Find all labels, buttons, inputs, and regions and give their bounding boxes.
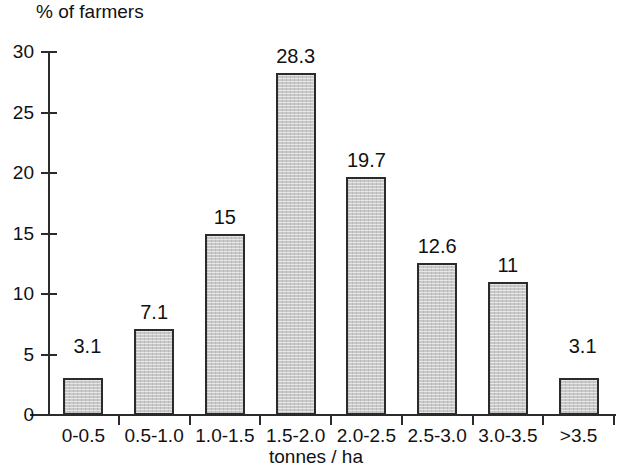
bar (134, 329, 174, 415)
bar-chart: % of farmers 051015202530 3.17.11528.319… (0, 0, 632, 472)
bar (346, 177, 386, 415)
x-axis-tick (472, 414, 474, 425)
bar (276, 73, 316, 415)
bar-value-label: 28.3 (268, 46, 324, 66)
x-axis-tick (542, 414, 544, 425)
x-axis-tick (330, 414, 332, 425)
x-axis-tick (259, 414, 261, 425)
bar-value-label: 7.1 (126, 302, 182, 322)
y-axis-tick-label: 15 (0, 224, 34, 243)
y-axis-tick-label: 10 (0, 284, 34, 303)
bar (559, 378, 599, 416)
bar (205, 234, 245, 416)
bar-value-label: 19.7 (338, 150, 394, 170)
y-axis-tick-label: 5 (0, 345, 34, 364)
y-axis-tick-label: 20 (0, 163, 34, 182)
bar (417, 263, 457, 415)
x-axis-tick (613, 414, 615, 425)
bar-value-label: 3.1 (555, 336, 611, 356)
y-axis-tick-label: 30 (0, 42, 34, 61)
x-axis-tick (401, 414, 403, 425)
bar-value-label: 11 (480, 255, 536, 275)
bar-value-label: 12.6 (409, 236, 465, 256)
bar-value-label: 3.1 (59, 336, 115, 356)
x-axis-tick (118, 414, 120, 425)
x-axis-title: tonnes / ha (0, 446, 632, 468)
bar (63, 378, 103, 416)
x-axis-category-label: >3.5 (536, 425, 621, 446)
bar-value-label: 15 (197, 207, 253, 227)
y-axis-tick-label: 25 (0, 103, 34, 122)
y-axis-tick-label: 0 (0, 405, 34, 424)
x-axis-tick (189, 414, 191, 425)
plot-area: 3.17.11528.319.712.6113.1 (48, 52, 614, 415)
bar (488, 282, 528, 415)
y-axis-title: % of farmers (36, 1, 144, 23)
